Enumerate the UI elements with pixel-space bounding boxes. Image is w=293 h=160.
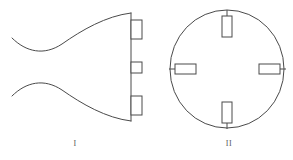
figure-2-tab-top (222, 16, 232, 37)
figure-1-tab-bottom (131, 96, 142, 115)
figure-2-group (169, 10, 286, 129)
figure-2-tab-bottom (222, 102, 232, 123)
drawing-canvas: I II (0, 0, 293, 160)
figure-2-label: II (206, 139, 252, 148)
figure-1-group (12, 13, 142, 121)
figure-2-tab-right (259, 64, 280, 74)
technical-drawing-svg (0, 0, 293, 160)
figure-1-tab-top (131, 20, 142, 39)
figure-2-tab-left (175, 64, 196, 74)
figure-1-upper-contour (12, 13, 131, 51)
figure-1-label: I (52, 139, 98, 148)
figure-1-lower-contour (12, 83, 131, 121)
figure-1-tab-middle (131, 62, 142, 73)
